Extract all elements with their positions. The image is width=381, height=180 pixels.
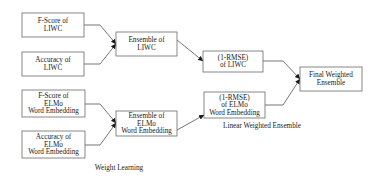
- node-acc-elmo: Accuracy ofELMoWord Embedding: [22, 131, 85, 158]
- edge-fscore-liwc-to-ens-liwc: [84, 25, 116, 44]
- edge-acc-elmo-to-ens-elmo: [85, 123, 116, 145]
- node-label-line: Ensemble: [317, 79, 345, 87]
- node-label-line: Word Embedding: [28, 107, 79, 115]
- ensemble-diagram: F-Score ofLIWCAccuracy ofLIWCEnsemble of…: [0, 0, 381, 180]
- node-rmse-elmo: (1-RMSE)of ELMoWord Embedding: [204, 92, 265, 118]
- node-label-line: LIWC: [44, 64, 63, 72]
- edge-rmse-elmo-to-final: [265, 79, 300, 105]
- nodes: F-Score ofLIWCAccuracy ofLIWCEnsemble of…: [22, 13, 362, 158]
- node-final: Final WeightedEnsemble: [300, 67, 362, 91]
- node-acc-liwc: Accuracy ofLIWC: [22, 52, 84, 76]
- edge-acc-liwc-to-ens-liwc: [84, 44, 116, 64]
- node-fscore-elmo: F-Score ofELMoWord Embedding: [22, 90, 85, 117]
- node-label-line: Word Embedding: [209, 109, 260, 117]
- node-fscore-liwc: F-Score ofLIWC: [22, 13, 84, 37]
- node-label-line: Word Embedding: [121, 127, 172, 135]
- edge-rmse-liwc-to-final: [263, 61, 300, 79]
- edge-fscore-elmo-to-ens-elmo: [85, 104, 116, 123]
- node-label-line: LIWC: [137, 44, 156, 52]
- linear-weighted-ensemble-label: Linear Weighted Ensemble: [223, 122, 301, 130]
- node-label-line: LIWC: [44, 25, 63, 33]
- node-ens-liwc: Ensemble ofLIWC: [116, 32, 177, 56]
- node-ens-elmo: Ensemble ofELMoWord Embedding: [116, 111, 177, 136]
- weight-learning-label: Weight Learning: [95, 164, 144, 172]
- node-rmse-liwc: (1-RMSE)of LIWC: [203, 51, 263, 72]
- node-label-line: Word Embedding: [28, 148, 79, 156]
- edge-ens-elmo-to-rmse-elmo: [177, 115, 204, 130]
- edge-ens-liwc-to-rmse-liwc: [177, 40, 203, 61]
- node-label-line: of LIWC: [220, 61, 246, 69]
